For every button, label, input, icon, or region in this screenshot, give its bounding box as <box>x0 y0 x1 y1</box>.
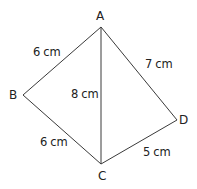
kite-diagram <box>0 0 197 189</box>
vertex-label-a: A <box>96 10 104 22</box>
vertex-label-c: C <box>98 170 106 182</box>
edge-label-ab: 6 cm <box>33 47 60 59</box>
vertex-label-b: B <box>9 89 17 101</box>
edge-label-cd: 5 cm <box>143 147 170 159</box>
edge-label-ad: 7 cm <box>145 59 172 71</box>
edge-ab <box>23 27 101 95</box>
edge-label-ac: 8 cm <box>71 89 98 101</box>
edge-label-bc: 6 cm <box>40 137 67 149</box>
edge-bc <box>23 95 101 164</box>
edge-ad <box>101 27 177 120</box>
vertex-label-d: D <box>179 114 188 126</box>
